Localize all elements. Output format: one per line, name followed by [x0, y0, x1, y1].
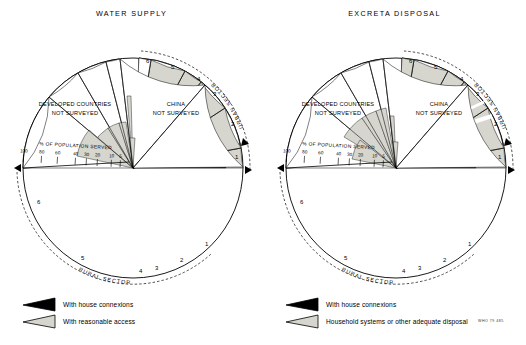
rural-number-6: 6: [300, 199, 304, 205]
rural-number-3: 3: [155, 265, 159, 271]
rural-number-6: 6: [37, 199, 41, 205]
rural-arrow: [14, 164, 21, 172]
figure-root: WATER SUPPLY: [0, 0, 526, 345]
legend-row-reasonable-access: With reasonable access: [22, 313, 262, 330]
panel-title-water-supply: WATER SUPPLY: [0, 9, 263, 18]
urban-arrow-bottom: [508, 166, 515, 174]
developed-countries-line1: DEVELOPED COUNTRIES: [302, 101, 375, 107]
scale-tick-40: 40: [336, 151, 342, 156]
rural-sector-label: RURAL SECTOR: [78, 266, 132, 285]
legend-row-house-connexions: With house connexions: [285, 296, 525, 313]
legend-label-adequate-disposal: Household systems or other adequate disp…: [326, 318, 468, 325]
panel-title-excreta-disposal: EXCRETA DISPOSAL: [263, 9, 526, 18]
rural-number-5: 5: [81, 255, 85, 261]
china-line1: CHINA: [167, 101, 185, 107]
rural-sector-arc: [17, 172, 211, 284]
rural-arrow: [277, 164, 284, 172]
scale-tick-80: 80: [39, 149, 45, 154]
china-line2: NOT SURVEYED: [153, 110, 199, 116]
panel-excreta-disposal: EXCRETA DISPOSAL: [263, 0, 526, 345]
legend-label-reasonable-access: With reasonable access: [63, 318, 135, 325]
scale-tick-40: 40: [73, 151, 79, 156]
chart-body-water: URBAN SECTOR 1 2 3 4 5 6: [14, 51, 252, 285]
rural-number-5: 5: [344, 255, 348, 261]
legend-label-house-connexions: With house connexions: [63, 301, 133, 308]
panel-water-supply: WATER SUPPLY: [0, 0, 263, 345]
scale-tick-10: 10: [109, 153, 115, 158]
document-code: WHO 79 485: [478, 319, 504, 323]
scale-tick-20: 20: [358, 152, 364, 157]
developed-countries-line1: DEVELOPED COUNTRIES: [39, 101, 112, 107]
urban-arrow-bottom: [245, 166, 252, 174]
china-line1: CHINA: [430, 101, 448, 107]
rural-sector-arc: [280, 172, 474, 284]
scale-tick-60: 60: [318, 150, 324, 155]
legend-excreta-disposal: With house connexions Household systems …: [285, 296, 525, 330]
house-connexions-swatch-icon: [22, 297, 56, 312]
radial-chart-excreta-disposal: URBAN SECTOR 1 2 3 4 5 6: [263, 0, 526, 300]
scale-tick-30: 30: [347, 152, 353, 157]
rural-number-1: 1: [205, 241, 209, 247]
urban-arrow-top: [241, 138, 249, 146]
rural-sector-label: RURAL SECTOR: [341, 266, 395, 285]
scale-tick-60: 60: [55, 150, 61, 155]
scale-tick-100: 100: [283, 148, 291, 153]
adequate-disposal-swatch-icon: [285, 314, 319, 329]
scale-tick-100: 100: [20, 148, 28, 153]
scale-tick-20: 20: [95, 152, 101, 157]
rural-number-3: 3: [418, 265, 422, 271]
legend-water-supply: With house connexions With reasonable ac…: [22, 296, 262, 330]
developed-countries-line2: NOT SURVEYED: [52, 110, 98, 116]
legend-label-house-connexions: With house connexions: [326, 301, 396, 308]
rural-number-4: 4: [139, 268, 143, 274]
chart-body-excreta: URBAN SECTOR 1 2 3 4 5 6: [277, 51, 515, 285]
legend-row-house-connexions: With house connexions: [22, 296, 262, 313]
reasonable-access-swatch-icon: [22, 314, 56, 329]
urban-arrow-top: [504, 138, 512, 146]
house-connexions-swatch-icon: [285, 297, 319, 312]
scale-tick-10: 10: [372, 153, 378, 158]
radial-chart-water-supply: URBAN SECTOR 1 2 3 4 5 6: [0, 0, 263, 300]
rural-number-4: 4: [402, 268, 406, 274]
china-line2: NOT SURVEYED: [416, 110, 462, 116]
rural-number-1: 1: [468, 241, 472, 247]
scale-tick-30: 30: [84, 152, 90, 157]
developed-countries-line2: NOT SURVEYED: [315, 110, 361, 116]
rural-number-2: 2: [180, 257, 184, 263]
rural-number-2: 2: [443, 257, 447, 263]
scale-tick-80: 80: [302, 149, 308, 154]
